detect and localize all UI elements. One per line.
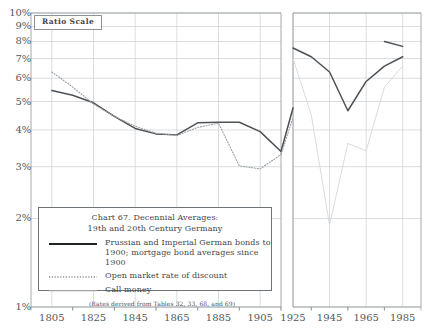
legend-entry-discount: Open market rate of discount <box>39 271 271 282</box>
y-axis-tick-label: 6% <box>3 73 31 83</box>
legend-label-call-money: Call money <box>105 285 151 295</box>
chart-legend: Chart 67. Decennial Averages: 19th and 2… <box>38 207 272 291</box>
y-axis-tick-label: 7% <box>3 54 31 64</box>
y-axis-labels: 1%2%3%4%5%6%7%8%9%10% <box>0 0 31 328</box>
y-axis-tick-label: 10% <box>3 8 31 18</box>
legend-swatch-solid-line <box>47 238 99 249</box>
legend-entry-call-money: Call money <box>39 285 271 296</box>
y-axis-tick-label: 2% <box>3 213 31 223</box>
legend-source-note: (Rates derived from Tables 32, 33, 68, a… <box>39 300 271 308</box>
legend-title-line-2: 19th and 20th Century Germany <box>39 224 271 235</box>
legend-label-discount: Open market rate of discount <box>105 271 227 281</box>
x-axis-tick-label: 1945 <box>317 312 342 323</box>
data-series-layer <box>52 41 403 225</box>
x-axis-tick-label: 1845 <box>122 312 147 323</box>
x-axis-labels: 1805182518451865188519051925194519651985 <box>0 308 433 326</box>
legend-label-bonds: Prussian and Imperial German bonds to 19… <box>105 238 271 268</box>
x-axis-tick-label: 1925 <box>280 312 305 323</box>
legend-swatch-light-line <box>47 285 99 296</box>
x-axis-tick-label: 1825 <box>81 312 106 323</box>
ratio-scale-badge: Ratio Scale <box>34 15 102 30</box>
y-axis-tick-label: 5% <box>3 97 31 107</box>
legend-label-bonds-line-2: 1900; mortgage bond averages since 1900 <box>105 248 259 267</box>
legend-swatch-dotted-line <box>47 271 99 282</box>
x-axis-tick-label: 1865 <box>164 312 189 323</box>
y-axis-tick-label: 4% <box>3 125 31 135</box>
y-axis-tick-label: 8% <box>3 36 31 46</box>
x-axis-tick-label: 1805 <box>39 312 64 323</box>
x-axis-tick-label: 1885 <box>206 312 231 323</box>
ratio-scale-label: Ratio Scale <box>42 17 94 26</box>
legend-entry-bonds: Prussian and Imperial German bonds to 19… <box>39 238 271 268</box>
x-axis-tick-label: 1985 <box>390 312 415 323</box>
chart-container: 1%2%3%4%5%6%7%8%9%10% 180518251845186518… <box>0 0 433 328</box>
legend-title-line-1: Chart 67. Decennial Averages: <box>39 213 271 224</box>
y-axis-tick-label: 3% <box>3 162 31 172</box>
x-axis-tick-label: 1905 <box>247 312 272 323</box>
x-axis-tick-label: 1965 <box>353 312 378 323</box>
y-axis-tick-label: 9% <box>3 21 31 31</box>
legend-title: Chart 67. Decennial Averages: 19th and 2… <box>39 208 271 234</box>
legend-label-bonds-line-1: Prussian and Imperial German bonds to <box>105 238 271 247</box>
